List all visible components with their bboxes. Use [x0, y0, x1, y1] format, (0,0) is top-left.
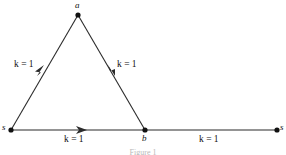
- node-label-b: b: [142, 134, 147, 143]
- node-label-s-right: s: [280, 123, 284, 132]
- graph-nodes: [8, 12, 279, 132]
- edge-label-s-to-b: k = 1: [64, 135, 84, 145]
- edge-label-s-to-a: k = 1: [14, 60, 34, 70]
- edge-label-a-to-b: k = 1: [117, 60, 137, 70]
- edge-line-a-to-b: [78, 15, 145, 130]
- edge-label-b-to-s: k = 1: [199, 135, 219, 145]
- node-label-a: a: [75, 1, 80, 10]
- figure-caption: Figure 1: [0, 148, 286, 155]
- node-label-s-left: s: [2, 123, 6, 132]
- figure-container: s a b s k = 1 k = 1 k = 1 k = 1 Figure 1: [0, 0, 286, 155]
- edge-line-s-to-a: [11, 15, 78, 130]
- node-dot-b[interactable]: [142, 127, 147, 132]
- node-dot-s-left[interactable]: [8, 127, 13, 132]
- arrowhead-s-to-a: [35, 65, 44, 76]
- arrowhead-a-to-b: [108, 65, 115, 76]
- graph-canvas: [0, 0, 286, 155]
- node-dot-a[interactable]: [75, 12, 80, 17]
- node-dot-s-right[interactable]: [274, 127, 279, 132]
- edge-lines: [11, 15, 277, 130]
- edge-arrowheads: [35, 65, 115, 134]
